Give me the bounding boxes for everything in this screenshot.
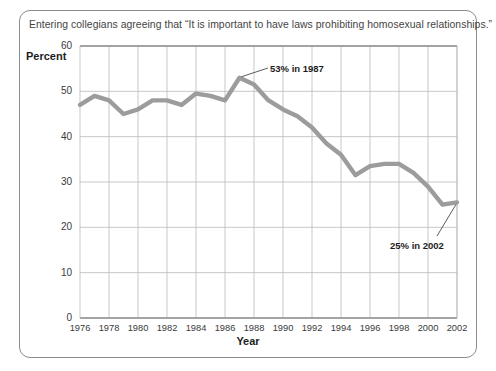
annotation-end-label: 25% in 2002 [390,240,444,251]
annotation-leader-lines [242,68,457,236]
x-tick-label: 2002 [442,323,472,333]
x-tick-label: 1976 [65,323,95,333]
chart-figure: Entering collegians agreeing that “It is… [0,0,496,371]
data-series-line [80,78,457,205]
y-tick-label: 30 [50,176,72,187]
annotation-peak-label: 53% in 1987 [270,63,324,74]
x-tick-label: 1990 [268,323,298,333]
y-tick-label: 0 [50,312,72,323]
x-tick-label: 1980 [123,323,153,333]
x-tick-label: 1988 [239,323,269,333]
x-tick-label: 2000 [413,323,443,333]
y-tick-label: 40 [50,131,72,142]
y-tick-label: 60 [50,40,72,51]
x-tick-label: 1984 [181,323,211,333]
y-tick-label: 50 [50,85,72,96]
x-tick-label: 1996 [355,323,385,333]
y-tick-label: 20 [50,221,72,232]
plot-area [0,0,496,371]
x-tick-label: 1982 [152,323,182,333]
x-tick-label: 1978 [94,323,124,333]
x-tick-label: 1992 [297,323,327,333]
x-tick-label: 1986 [210,323,240,333]
y-tick-label: 10 [50,267,72,278]
x-tick-label: 1994 [326,323,356,333]
x-tick-label: 1998 [384,323,414,333]
